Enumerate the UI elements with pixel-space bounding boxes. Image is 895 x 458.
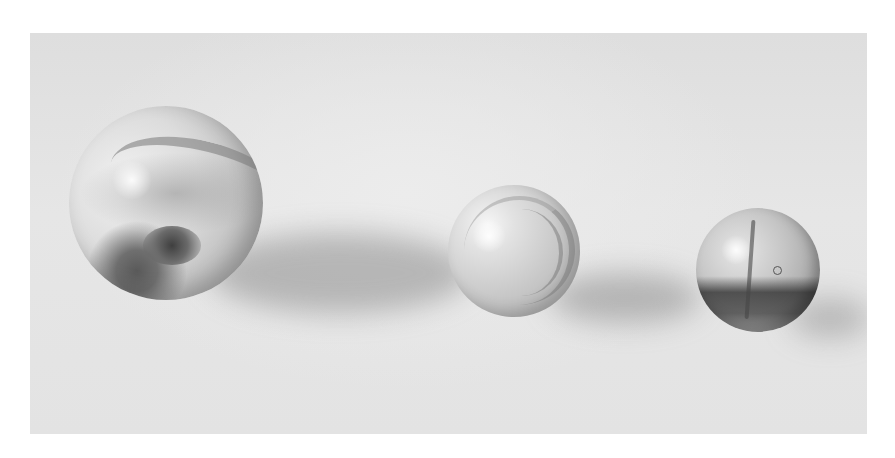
marble-highlight [721,235,751,265]
marble-dark-swirl [143,226,201,265]
marble-air-bubble [773,266,782,275]
medium-swirl-marble [448,185,580,317]
small-clear-marble [696,208,820,332]
large-swirl-marble [69,106,263,300]
marbles-photograph [30,33,867,434]
marble-highlight [472,219,506,253]
marble-vein [745,220,756,319]
marble-highlight [112,160,152,200]
